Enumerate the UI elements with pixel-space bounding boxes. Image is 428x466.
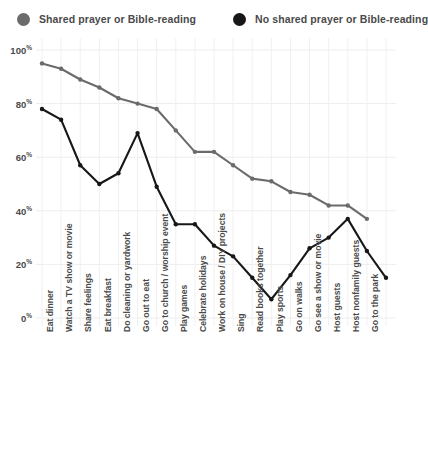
data-point[interactable]	[40, 107, 44, 111]
x-axis-tick-label: Go to the park	[370, 274, 380, 332]
data-point[interactable]	[116, 171, 120, 175]
data-point[interactable]	[307, 246, 311, 250]
x-axis-tick-label: Host guests	[332, 283, 342, 332]
data-point[interactable]	[78, 77, 82, 81]
data-point[interactable]	[346, 203, 350, 207]
x-axis-tick-label: Read books together	[255, 247, 265, 332]
data-point[interactable]	[59, 117, 63, 121]
y-axis-tick-80: 80%	[16, 98, 32, 110]
data-point[interactable]	[40, 61, 44, 65]
data-point[interactable]	[97, 182, 101, 186]
x-axis-tick-label: Eat breakfast	[103, 278, 113, 332]
data-point[interactable]	[250, 176, 254, 180]
data-point[interactable]	[250, 276, 254, 280]
x-axis-tick-label: Go out to eat	[141, 279, 151, 332]
x-axis-tick-label: Play games	[179, 285, 189, 332]
x-axis-tick-label: Eat dinner	[45, 290, 55, 332]
circle-marker-icon	[17, 13, 30, 26]
x-axis-tick-label: Watch a TV show or movie	[64, 223, 74, 332]
circle-marker-icon	[233, 13, 246, 26]
y-axis-tick-20: 20%	[16, 258, 32, 270]
y-axis-tick-60: 60%	[16, 151, 32, 163]
data-point[interactable]	[212, 150, 216, 154]
legend-label-no-shared-prayer: No shared prayer or Bible-reading	[255, 13, 428, 25]
data-point[interactable]	[97, 85, 101, 89]
x-axis-tick-label: Do cleaning or yardwork	[122, 232, 132, 332]
data-point[interactable]	[116, 96, 120, 100]
data-point[interactable]	[365, 249, 369, 253]
data-point[interactable]	[135, 131, 139, 135]
legend-item-shared-prayer[interactable]: Shared prayer or Bible-reading	[17, 13, 196, 26]
data-point[interactable]	[365, 217, 369, 221]
data-point[interactable]	[59, 67, 63, 71]
data-point[interactable]	[269, 179, 273, 183]
y-axis-tick-40: 40%	[16, 205, 32, 217]
x-axis-tick-label: Share feelings	[83, 273, 93, 332]
y-axis-tick-labels: 100%80%60%40%20%0%	[0, 38, 36, 326]
data-point[interactable]	[288, 190, 292, 194]
data-point[interactable]	[78, 163, 82, 167]
x-axis-tick-label: Go to church / worship event	[160, 214, 170, 332]
y-axis-tick-100: 100%	[10, 44, 32, 56]
x-axis-tick-label: Play sports	[275, 286, 285, 332]
data-point[interactable]	[346, 217, 350, 221]
x-axis-tick-label: Work on house / DIY projects	[217, 213, 227, 332]
y-axis-tick-0: 0%	[21, 312, 32, 324]
data-point[interactable]	[174, 222, 178, 226]
x-axis-tick-label: Celebrate holidays	[198, 256, 208, 332]
x-axis-tick-label: Host nonfamily guests	[351, 240, 361, 332]
data-point[interactable]	[193, 222, 197, 226]
data-point[interactable]	[307, 193, 311, 197]
legend-item-no-shared-prayer[interactable]: No shared prayer or Bible-reading	[233, 13, 428, 26]
data-point[interactable]	[288, 273, 292, 277]
chart-plot-area: 100%80%60%40%20%0% Eat dinnerWatch a TV …	[0, 38, 405, 466]
x-axis-tick-label: Go see a show or movie	[313, 234, 323, 332]
x-axis-tick-label: Sing	[236, 313, 246, 332]
data-point[interactable]	[154, 107, 158, 111]
data-point[interactable]	[174, 128, 178, 132]
data-point[interactable]	[154, 184, 158, 188]
data-point[interactable]	[212, 243, 216, 247]
series-line-0	[42, 63, 367, 218]
data-point[interactable]	[269, 297, 273, 301]
data-point[interactable]	[384, 276, 388, 280]
data-point[interactable]	[326, 203, 330, 207]
x-axis-tick-labels: Eat dinnerWatch a TV show or movieShare …	[36, 326, 396, 466]
legend-label-shared-prayer: Shared prayer or Bible-reading	[39, 13, 196, 25]
x-axis-tick-label: Go on walks	[294, 281, 304, 332]
data-point[interactable]	[231, 254, 235, 258]
chart-legend: Shared prayer or Bible-reading No shared…	[0, 0, 405, 38]
data-point[interactable]	[326, 235, 330, 239]
data-point[interactable]	[135, 101, 139, 105]
data-point[interactable]	[193, 150, 197, 154]
data-point[interactable]	[231, 163, 235, 167]
